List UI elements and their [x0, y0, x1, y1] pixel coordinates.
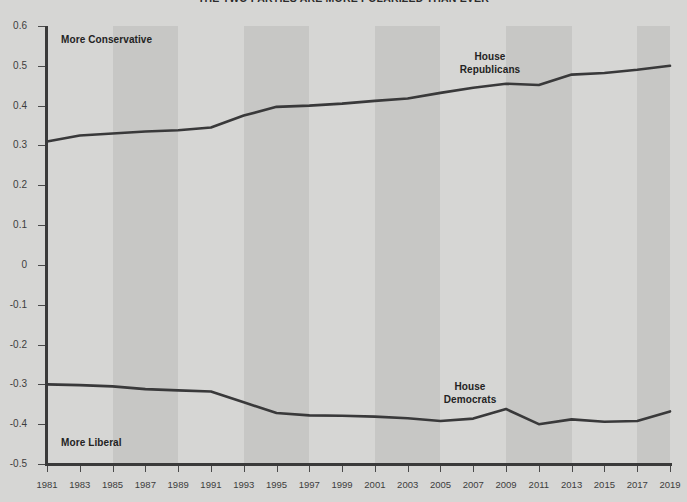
x-axis-tick — [80, 466, 81, 472]
series-lines — [47, 26, 670, 464]
annotation-house-republicans: House Republicans — [435, 50, 545, 76]
y-axis-tick-label: 0.4 — [0, 100, 27, 111]
x-axis-tick — [277, 466, 278, 472]
x-axis-tick — [47, 466, 48, 472]
annotation-more-liberal: More Liberal — [61, 437, 122, 448]
y-axis-tick-label: 0 — [0, 259, 27, 270]
x-axis-tick — [309, 466, 310, 472]
y-axis-tick-label: -0.2 — [0, 339, 27, 350]
y-axis-tick-label: -0.1 — [0, 299, 27, 310]
y-axis-tick — [38, 225, 45, 226]
y-axis-tick — [38, 384, 45, 385]
x-axis-tick — [572, 466, 573, 472]
annotation-house-republicans-line2: Republicans — [435, 63, 545, 76]
plot-area: 0.60.50.40.30.20.10-0.1-0.2-0.3-0.4-0.5 … — [47, 26, 670, 464]
house-republicans-line — [47, 66, 670, 142]
y-axis-tick — [38, 424, 45, 425]
x-axis-tick — [113, 466, 114, 472]
y-axis-tick-label: 0.2 — [0, 179, 27, 190]
x-axis-tick — [440, 466, 441, 472]
chart-title: THE TWO PARTIES ARE MORE POLARIZED THAN … — [0, 0, 687, 4]
x-axis-tick — [506, 466, 507, 472]
x-axis-tick — [604, 466, 605, 472]
annotation-house-democrats-line1: House — [415, 380, 525, 393]
annotation-more-conservative: More Conservative — [61, 34, 152, 45]
y-axis-tick-label: 0.6 — [0, 20, 27, 31]
y-axis-tick — [38, 185, 45, 186]
y-axis-tick — [38, 345, 45, 346]
x-axis-tick — [375, 466, 376, 472]
y-axis-tick — [38, 26, 45, 27]
annotation-house-democrats: House Democrats — [415, 380, 525, 406]
y-axis-tick-label: 0.5 — [0, 60, 27, 71]
x-axis-tick — [670, 466, 671, 472]
x-axis-tick — [211, 466, 212, 472]
y-axis-tick-label: 0.3 — [0, 139, 27, 150]
chart-page: THE TWO PARTIES ARE MORE POLARIZED THAN … — [0, 0, 687, 502]
y-axis-tick — [38, 66, 45, 67]
x-axis-tick — [342, 466, 343, 472]
y-axis-tick — [38, 265, 45, 266]
house-democrats-line — [47, 384, 670, 424]
y-axis-tick-label: -0.5 — [0, 458, 27, 469]
x-axis-tick-label: 2019 — [650, 479, 687, 490]
x-axis-tick — [244, 466, 245, 472]
x-axis-tick — [539, 466, 540, 472]
y-axis-tick — [38, 145, 45, 146]
annotation-house-democrats-line2: Democrats — [415, 393, 525, 406]
y-axis-tick-label: -0.4 — [0, 418, 27, 429]
x-axis-tick — [145, 466, 146, 472]
y-axis-tick — [38, 305, 45, 306]
x-axis-tick — [473, 466, 474, 472]
y-axis-tick-label: 0.1 — [0, 219, 27, 230]
x-axis-tick — [408, 466, 409, 472]
y-axis-tick — [38, 106, 45, 107]
y-axis-tick — [38, 464, 45, 465]
x-axis-tick — [637, 466, 638, 472]
y-axis-tick-label: -0.3 — [0, 378, 27, 389]
x-axis-tick — [178, 466, 179, 472]
annotation-house-republicans-line1: House — [435, 50, 545, 63]
